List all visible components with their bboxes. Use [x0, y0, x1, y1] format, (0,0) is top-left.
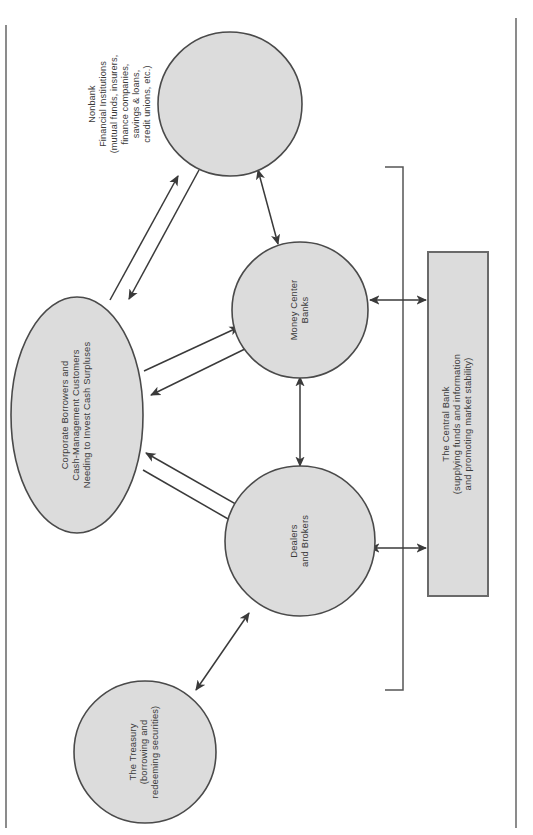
- corporate-borrowers-label-line-2: Cash-Management Customers: [70, 349, 81, 481]
- dealers-brokers-label-line-2: and Brokers: [299, 515, 310, 567]
- central-bank-label-line-3: and promoting market stability): [462, 358, 473, 491]
- money-center-banks-label-line-2: Banks: [299, 296, 310, 323]
- diagram-page: Nonbank Financial Institutions (mutual f…: [0, 0, 533, 835]
- edge-dealers-treasury: [196, 613, 249, 690]
- node-dealers-and-brokers[interactable]: Dealers and Brokers: [225, 466, 375, 616]
- node-nonbank-financial-institutions[interactable]: Nonbank Financial Institutions (mutual f…: [87, 32, 302, 176]
- corporate-borrowers-label-line-3: Needing to Invest Cash Surpluses: [81, 342, 92, 489]
- edge-money-center-to-corporate: [151, 347, 249, 395]
- nonbank-label-line-6: credit unions, etc.): [142, 65, 152, 142]
- treasury-label-line-2: (borrowing and: [138, 720, 149, 785]
- node-treasury[interactable]: The Treasury (borrowing and redeeming se…: [74, 681, 216, 823]
- treasury-label-line-3: redeeming securities): [149, 706, 160, 799]
- central-bank-label-line-1: The Central Bank: [440, 386, 451, 462]
- money-market-flow-diagram: Nonbank Financial Institutions (mutual f…: [0, 0, 533, 835]
- money-center-banks-label-line-1: Money Center: [288, 280, 299, 341]
- central-bank-label-line-2: (supplying funds and information: [451, 354, 462, 494]
- node-money-center-banks[interactable]: Money Center Banks: [232, 242, 368, 378]
- central-bank-bracket: [385, 167, 403, 690]
- edge-nonbank-to-corporate: [129, 170, 199, 299]
- edge-corporate-to-nonbank: [110, 176, 178, 300]
- nonbank-label-line-4: finance companies,: [120, 63, 130, 144]
- treasury-label-line-1: The Treasury: [127, 723, 138, 780]
- node-central-bank[interactable]: The Central Bank (supplying funds and in…: [428, 252, 488, 596]
- nonbank-label-line-2: Financial Institutions: [98, 61, 108, 147]
- node-corporate-borrowers[interactable]: Corporate Borrowers and Cash-Management …: [11, 297, 143, 533]
- nonbank-label-line-3: (mutual funds, insurers,: [109, 55, 119, 154]
- edge-nonbank-money-center: [258, 170, 278, 244]
- edge-corporate-to-money-center: [144, 327, 239, 371]
- nonbank-circle[interactable]: [158, 32, 302, 176]
- nonbank-label-line-5: savings & loans,: [131, 70, 141, 139]
- corporate-borrowers-label-line-1: Corporate Borrowers and: [59, 361, 70, 470]
- nonbank-label-line-1: Nonbank: [87, 85, 97, 123]
- dealers-brokers-label-line-1: Dealers: [288, 524, 299, 558]
